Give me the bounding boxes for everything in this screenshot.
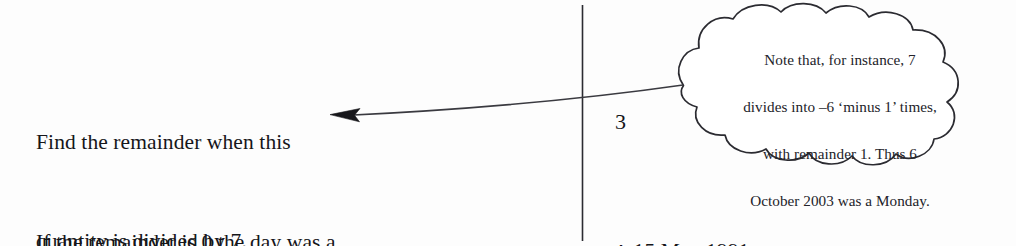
cloud-line-4: October 2003 was a Monday. bbox=[690, 189, 990, 213]
left-paragraph-2-line-1: If the remainder is 0 the day was a bbox=[36, 226, 336, 246]
callout-arrow-head bbox=[330, 109, 360, 122]
cloud-line-1: Note that, for instance, 7 bbox=[690, 48, 990, 72]
step-number: 3 bbox=[615, 108, 626, 136]
callout-arrow-line bbox=[344, 85, 683, 116]
scanned-page: Find the remainder when this quantity is… bbox=[0, 0, 1016, 246]
cloud-line-2: divides into –6 ‘minus 1’ times, bbox=[690, 95, 990, 119]
left-paragraph-1-line-1: Find the remainder when this bbox=[36, 126, 291, 159]
conclusion-line-1: ∴ 15 May 1991 was a bbox=[614, 234, 804, 246]
cloud-line-3: with remainder 1. Thus 6 bbox=[690, 142, 990, 166]
left-paragraph-remainder-rule: If the remainder is 0 the day was a Sund… bbox=[36, 160, 336, 246]
cloud-callout-text: Note that, for instance, 7 divides into … bbox=[690, 24, 990, 236]
